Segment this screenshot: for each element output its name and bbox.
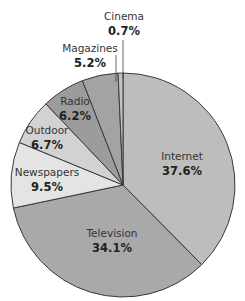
label-television-value: 34.1% — [92, 241, 132, 255]
label-internet-value: 37.6% — [162, 164, 202, 178]
label-television-name: Television — [85, 227, 137, 239]
label-radio-name: Radio — [60, 95, 90, 107]
label-cinema-name: Cinema — [104, 10, 144, 22]
label-outdoor-value: 6.7% — [31, 138, 63, 152]
label-cinema-value: 0.7% — [108, 24, 140, 38]
label-outdoor-name: Outdoor — [26, 124, 70, 136]
pie-chart: Cinema 0.7% Magazines 5.2% Radio 6.2% Ou… — [0, 0, 245, 301]
label-radio-value: 6.2% — [59, 109, 91, 123]
label-magazines-value: 5.2% — [74, 56, 106, 70]
label-newspapers-name: Newspapers — [15, 166, 79, 178]
label-internet-name: Internet — [161, 150, 203, 162]
label-newspapers-value: 9.5% — [31, 180, 63, 194]
label-magazines-name: Magazines — [62, 42, 118, 54]
